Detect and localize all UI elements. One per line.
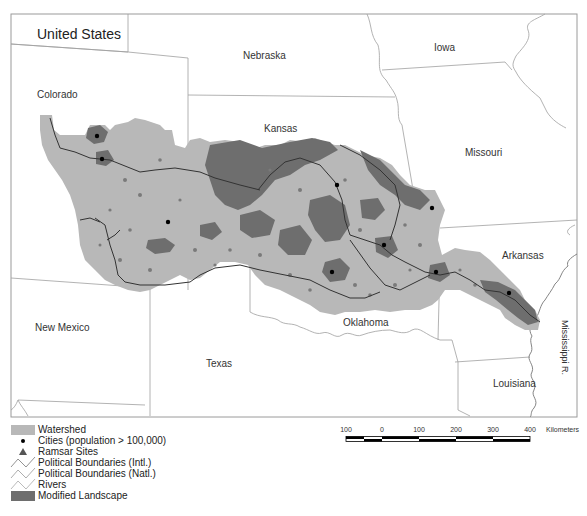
scale-tick: 400	[524, 426, 536, 433]
state-label-colorado: Colorado	[37, 89, 78, 100]
watershed-swatch-icon	[10, 424, 36, 435]
river-line-icon	[10, 479, 36, 490]
legend-item-modified-landscape: Modified Landscape	[10, 490, 166, 501]
scale-bar-graphic	[338, 436, 538, 444]
state-label-iowa: Iowa	[434, 42, 455, 53]
legend-item-natl-boundary: Political Boundaries (Natl.)	[10, 468, 166, 479]
state-label-new-mexico: New Mexico	[35, 322, 89, 333]
legend-item-rivers: Rivers	[10, 479, 166, 490]
natl-boundary-line-icon	[10, 468, 36, 479]
scale-tick: 0	[380, 426, 384, 433]
scale-tick: 100	[413, 426, 425, 433]
state-label-texas: Texas	[206, 358, 232, 369]
state-label-missouri: Missouri	[465, 147, 502, 158]
legend-item-ramsar: Ramsar Sites	[10, 446, 166, 457]
scale-bar: 100 0 100 200 300 400 Kilometers	[338, 426, 587, 450]
state-label-kansas: Kansas	[264, 123, 297, 134]
scale-tick: 100	[340, 426, 352, 433]
scale-tick: 300	[487, 426, 499, 433]
map-canvas	[0, 0, 587, 420]
ramsar-triangle-icon	[10, 446, 36, 457]
map-frame: United States Nebraska Iowa Colorado Kan…	[0, 0, 587, 420]
legend: Watershed Cities (population > 100,000) …	[10, 424, 166, 501]
state-label-louisiana: Louisiana	[493, 378, 536, 389]
intl-boundary-line-icon	[10, 457, 36, 468]
legend-item-cities: Cities (population > 100,000)	[10, 435, 166, 446]
city-dot-icon	[10, 435, 36, 446]
scale-unit: Kilometers	[546, 426, 579, 433]
state-label-arkansas: Arkansas	[502, 250, 544, 261]
state-label-oklahoma: Oklahoma	[343, 317, 389, 328]
legend-item-watershed: Watershed	[10, 424, 166, 435]
state-label-nebraska: Nebraska	[243, 50, 286, 61]
scale-tick: 200	[450, 426, 462, 433]
legend-item-intl-boundary: Political Boundaries (Intl.)	[10, 457, 166, 468]
modified-landscape-swatch-icon	[10, 490, 36, 501]
river-label-mississippi: Mississippi R.	[560, 320, 570, 375]
country-label: United States	[37, 26, 121, 42]
